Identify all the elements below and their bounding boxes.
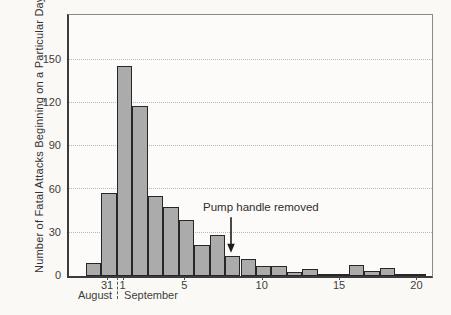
bar-sep-2 [132, 106, 147, 276]
bar-sep-20 [411, 274, 426, 276]
month-label-september: September [124, 290, 178, 301]
y-tick-90: 90 [27, 139, 61, 151]
bar-aug-30 [86, 263, 101, 276]
x-tickmark-20 [416, 277, 417, 280]
bar-sep-1 [117, 66, 132, 276]
cholera-outbreak-histogram: Number of Fatal Attacks Beginning on a P… [0, 0, 451, 315]
x-tick-10: 10 [247, 280, 277, 291]
x-tickmark-1 [123, 277, 124, 280]
bar-sep-5 [179, 220, 194, 276]
y-tick-120: 120 [27, 96, 61, 108]
bar-sep-17 [364, 271, 379, 276]
x-tick-15: 15 [324, 280, 354, 291]
y-tick-60: 60 [27, 183, 61, 195]
bar-sep-13 [302, 269, 317, 276]
bar-sep-16 [349, 265, 364, 276]
x-tickmark-10 [262, 277, 263, 280]
bar-sep-11 [271, 266, 286, 276]
x-tick-20: 20 [401, 280, 431, 291]
plot-area [67, 14, 433, 278]
bar-aug-31 [101, 193, 116, 276]
bar-sep-18 [380, 268, 395, 276]
y-tick-150: 150 [27, 53, 61, 65]
bar-sep-10 [256, 266, 271, 276]
bar-sep-4 [163, 207, 178, 276]
x-tickmark-15 [339, 277, 340, 280]
month-label-august: August [78, 290, 112, 301]
x-tickmark-5 [184, 277, 185, 280]
bar-sep-14 [318, 274, 333, 276]
down-arrow-icon [226, 217, 236, 257]
y-tick-30: 30 [27, 226, 61, 238]
month-separator [117, 277, 118, 299]
bar-sep-8 [225, 256, 240, 276]
bar-sep-15 [333, 274, 348, 276]
bar-sep-6 [194, 245, 209, 276]
y-tick-0: 0 [27, 269, 61, 281]
bar-sep-9 [241, 259, 256, 276]
bar-sep-3 [148, 196, 163, 276]
annotation-text: Pump handle removed [203, 201, 319, 213]
bar-sep-12 [287, 272, 302, 276]
gridline-150 [69, 59, 432, 60]
bar-sep-7 [210, 235, 225, 276]
bar-sep-19 [395, 274, 410, 276]
